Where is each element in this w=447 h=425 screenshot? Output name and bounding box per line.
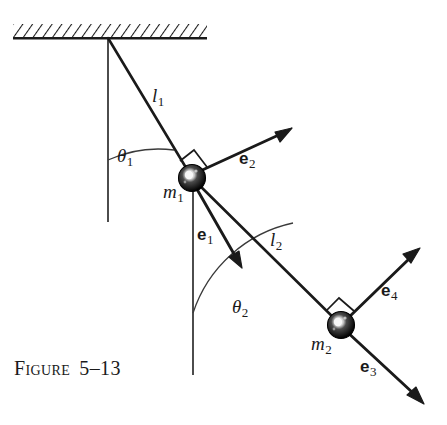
label-l1-sub: 1: [158, 94, 165, 109]
label-theta1-base: θ: [117, 145, 126, 166]
label-theta1: θ1: [117, 146, 133, 168]
label-m1-sub: 1: [177, 190, 184, 205]
label-e4-sub: 4: [391, 288, 398, 303]
label-m2-sub: 2: [325, 342, 332, 357]
right-angle-marker-m2: [327, 298, 354, 311]
ceiling-support: [13, 24, 207, 38]
label-e2-base: e: [239, 149, 248, 168]
figure-caption-word: Figure: [14, 357, 70, 379]
label-l1-base: l: [152, 85, 157, 106]
label-e4: e4: [381, 282, 397, 302]
label-theta1-sub: 1: [127, 154, 134, 169]
figure-double-pendulum: l1 l2 m1 m2 θ1 θ2 e1 e2 e3 e4 Figure5–13: [0, 0, 447, 425]
label-e1: e1: [197, 226, 213, 246]
label-e1-sub: 1: [207, 232, 214, 247]
label-m2-base: m: [311, 333, 325, 354]
label-theta2-base: θ: [232, 296, 241, 317]
label-m2: m2: [311, 334, 332, 356]
label-theta2: θ2: [232, 297, 248, 319]
label-l2: l2: [270, 230, 282, 252]
ceiling-hatching: [13, 24, 207, 38]
label-e2: e2: [239, 150, 255, 170]
label-e3-base: e: [360, 357, 369, 376]
rod-l2: [192, 178, 343, 327]
label-e4-base: e: [381, 281, 390, 300]
label-l2-base: l: [270, 229, 275, 250]
label-e3-sub: 3: [370, 364, 377, 379]
label-l1: l1: [152, 86, 164, 108]
label-m1-base: m: [163, 181, 177, 202]
label-theta2-sub: 2: [242, 305, 249, 320]
label-e3: e3: [360, 358, 376, 378]
label-l2-sub: 2: [276, 238, 283, 253]
label-e2-sub: 2: [249, 156, 256, 171]
label-e1-base: e: [197, 225, 206, 244]
vector-arrow-e3: [345, 330, 424, 404]
figure-caption: Figure5–13: [14, 357, 121, 380]
figure-caption-number: 5–13: [79, 357, 121, 379]
label-m1: m1: [163, 182, 184, 204]
